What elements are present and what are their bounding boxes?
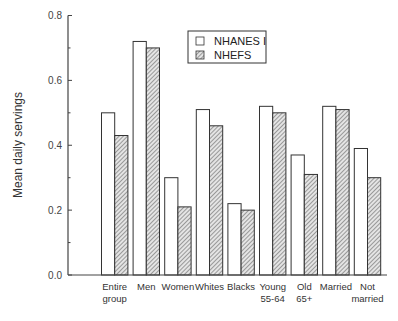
x-category-label: Men	[137, 281, 155, 292]
y-tick-label: 0.2	[48, 205, 62, 216]
y-tick-label: 0.0	[48, 270, 62, 281]
x-category-label: Blacks	[227, 281, 255, 292]
bar-nhefs	[178, 207, 191, 275]
bar-nhanes	[196, 110, 209, 275]
bar-nhefs	[273, 113, 286, 275]
legend: NHANES I NHEFS	[188, 31, 266, 63]
y-tick-label: 0.8	[48, 10, 62, 21]
x-category-label: 55-64	[261, 293, 285, 304]
legend-label-nhanes: NHANES I	[214, 35, 266, 47]
y-tick-label: 0.4	[48, 140, 62, 151]
bar-nhanes	[323, 106, 336, 275]
bar-nhefs	[304, 174, 317, 275]
bars	[102, 41, 381, 275]
y-axis-label: Mean daily servings	[11, 92, 25, 198]
legend-swatch-nhefs	[196, 51, 204, 59]
bar-nhefs	[146, 48, 159, 275]
y-tick-label: 0.6	[48, 75, 62, 86]
bar-nhanes	[165, 178, 178, 275]
bar-nhefs	[241, 210, 254, 275]
legend-swatch-nhanes	[196, 37, 204, 45]
legend-label-nhefs: NHEFS	[214, 49, 251, 61]
bar-nhanes	[228, 204, 241, 275]
bar-nhefs	[368, 178, 381, 275]
x-category-label: group	[103, 293, 127, 304]
bar-nhanes	[291, 155, 304, 275]
x-category-label: 65+	[296, 293, 313, 304]
bar-nhanes	[260, 106, 273, 275]
x-category-label: Old	[297, 281, 312, 292]
y-axis: 0.00.20.40.60.8	[48, 10, 72, 281]
bar-nhefs	[210, 126, 223, 275]
x-category-label: Not	[360, 281, 375, 292]
bar-nhefs	[336, 110, 349, 275]
x-category-label: Entire	[102, 281, 127, 292]
x-category-label: Women	[162, 281, 195, 292]
x-category-label: Whites	[195, 281, 224, 292]
x-category-label: Married	[320, 281, 352, 292]
bar-nhanes	[133, 41, 146, 275]
x-category-label: married	[351, 293, 383, 304]
bar-nhanes	[102, 113, 115, 275]
bar-nhanes	[354, 148, 367, 275]
x-axis: EntiregroupMenWomenWhitesBlacksYoung55-6…	[68, 275, 387, 304]
bar-chart: 0.00.20.40.60.8 EntiregroupMenWomenWhite…	[0, 0, 398, 321]
bar-nhefs	[115, 136, 128, 275]
x-category-label: Young	[259, 281, 286, 292]
